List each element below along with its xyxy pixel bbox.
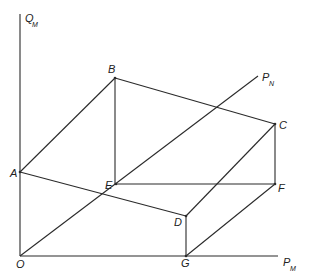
x-axis-label-sub: M [290,265,296,272]
y-axis-label-sub: M [32,21,38,28]
label-f: F [278,182,286,194]
label-b: B [108,63,115,75]
edge-a-b [20,78,115,172]
point-c-dot [274,123,277,126]
edge-d-c [186,124,275,216]
edge-a-d [20,172,186,216]
edge-g-f [186,184,275,256]
point-b-dot [114,77,117,80]
point-f-dot [274,183,277,186]
label-d: D [174,216,182,228]
label-c: C [279,119,287,131]
point-d-dot [185,215,188,218]
point-e-dot [115,183,118,186]
edge-b-c [115,78,275,124]
three-dimensional-diagram: Q M P M P N O A B C E F D G [0,0,326,280]
label-e: E [105,179,113,191]
label-a: A [9,167,17,179]
label-g: G [181,257,190,269]
point-a-dot [19,171,22,174]
label-o: O [16,258,25,270]
diagonal-axis-pn [20,76,258,256]
diag-axis-label-sub: N [269,80,275,87]
